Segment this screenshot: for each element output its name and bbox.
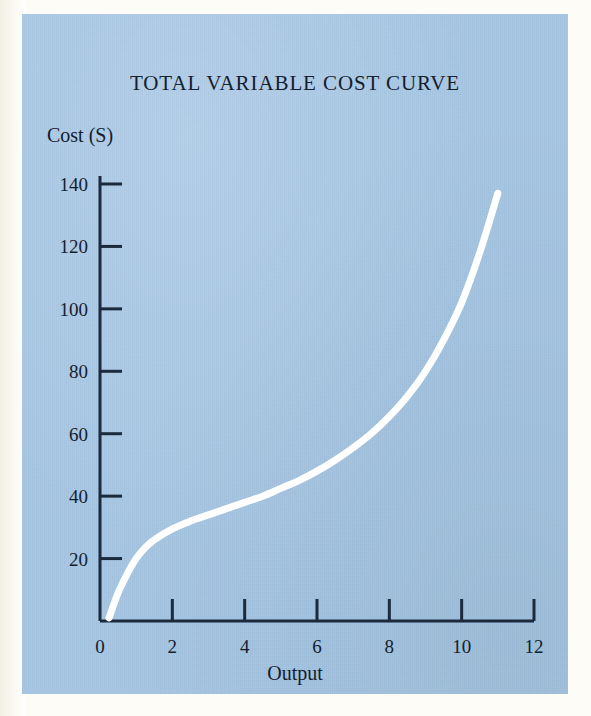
x-tick-label-4: 4 (240, 636, 250, 657)
y-tick-label-120: 120 (60, 236, 89, 257)
total-variable-cost-curve (109, 193, 498, 618)
y-tick-labels: 20406080100120140 (60, 174, 89, 570)
chart-panel: TOTAL VARIABLE COST CURVE Cost (S) Outpu… (22, 14, 568, 694)
x-tick-label-6: 6 (312, 636, 322, 657)
axis-lines (100, 176, 534, 621)
x-tick-labels: 024681012 (95, 636, 543, 657)
x-tick-label-0: 0 (95, 636, 105, 657)
y-tick-label-80: 80 (69, 361, 88, 382)
x-tick-label-8: 8 (385, 636, 395, 657)
y-tick-label-60: 60 (69, 424, 88, 445)
x-tick-label-10: 10 (452, 636, 471, 657)
figure-page: TOTAL VARIABLE COST CURVE Cost (S) Outpu… (0, 0, 591, 716)
y-tick-label-20: 20 (69, 549, 88, 570)
x-tick-label-2: 2 (168, 636, 178, 657)
x-tick-label-12: 12 (525, 636, 544, 657)
y-tick-label-100: 100 (60, 299, 89, 320)
y-tick-marks (100, 184, 122, 559)
y-tick-label-40: 40 (69, 486, 88, 507)
y-tick-label-140: 140 (60, 174, 89, 195)
plot-area: 20406080100120140 024681012 (22, 14, 568, 694)
x-tick-marks (172, 599, 534, 621)
